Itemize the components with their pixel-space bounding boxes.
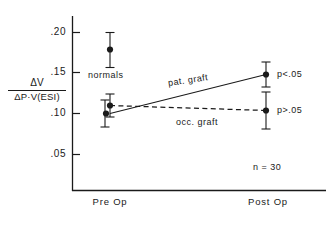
- x-tick-label-post-op: Post Op: [236, 196, 300, 207]
- y-tick-label-20: .20: [34, 26, 66, 37]
- datapoint-occ-graft-pre: [107, 102, 113, 108]
- y-axis-label-denominator: ΔP·V(ESI): [8, 91, 66, 102]
- occ-graft-significance-label: p>.05: [277, 105, 302, 115]
- figure-container: .20 .15 .10 .05 ΔV ΔP·V(ESI) Pre Op Post…: [0, 0, 335, 229]
- x-tick-label-pre-op: Pre Op: [78, 196, 142, 207]
- pat-graft-significance-label: p<.05: [277, 69, 302, 79]
- sample-size-label: n = 30: [253, 162, 281, 172]
- datapoint-pat-graft-pre: [103, 110, 109, 116]
- occ-graft-line-label: occ. graft: [176, 117, 218, 127]
- normals-label: normals: [88, 70, 124, 80]
- y-axis-label-numerator: ΔV: [8, 78, 66, 91]
- y-axis-label: ΔV ΔP·V(ESI): [8, 78, 66, 101]
- y-tick-label-10: .10: [34, 107, 66, 118]
- y-tick-label-15: .15: [34, 66, 66, 77]
- datapoint-occ-graft-post: [263, 107, 269, 113]
- datapoint-pat-graft-post: [263, 71, 269, 77]
- datapoint-normals: [107, 46, 113, 52]
- y-tick-label-05: .05: [34, 148, 66, 159]
